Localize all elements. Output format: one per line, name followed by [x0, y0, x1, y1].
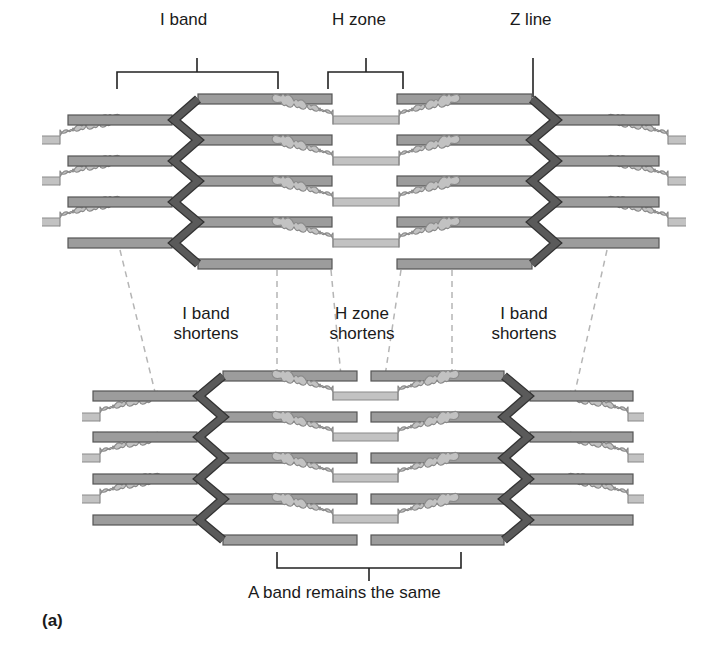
actin-filament	[198, 259, 332, 269]
label-i-band: I band	[160, 10, 207, 30]
actin-filament	[93, 391, 197, 401]
i-band-bracket	[117, 58, 278, 89]
actin-filament	[93, 474, 197, 484]
actin-filament	[223, 535, 357, 545]
actin-filament	[198, 217, 332, 227]
actin-filament	[198, 94, 332, 104]
actin-filament	[556, 115, 659, 125]
label-line-2: shortens	[173, 324, 238, 343]
actin-filament	[530, 474, 633, 484]
panel-label: (a)	[42, 611, 63, 631]
label-line-1: H zone	[335, 304, 389, 323]
label-i-band-shortens-right: I band shortens	[464, 304, 584, 344]
label-z-line: Z line	[510, 10, 552, 30]
actin-filament	[68, 156, 172, 166]
label-line-2: shortens	[329, 324, 394, 343]
label-h-zone: H zone	[332, 10, 386, 30]
label-i-band-shortens-left: I band shortens	[146, 304, 266, 344]
actin-filament	[397, 176, 532, 186]
actin-filament	[68, 115, 172, 125]
actin-filament	[397, 135, 532, 145]
relaxed-sarcomere	[42, 94, 686, 269]
contracted-sarcomere	[82, 370, 644, 545]
actin-filament	[93, 515, 197, 525]
actin-filament	[371, 535, 504, 545]
actin-filament	[68, 238, 172, 248]
a-band-bracket	[277, 552, 461, 581]
actin-filament	[68, 197, 172, 207]
actin-filament	[530, 391, 633, 401]
actin-filament	[530, 515, 633, 525]
sarcomere-contraction-diagram: I band H zone Z line I band shortens H z…	[0, 0, 722, 650]
label-line-1: I band	[182, 304, 229, 323]
label-line-2: shortens	[491, 324, 556, 343]
label-h-zone-shortens: H zone shortens	[302, 304, 422, 344]
label-line-1: I band	[500, 304, 547, 323]
actin-filament	[556, 156, 659, 166]
actin-filament	[556, 238, 659, 248]
actin-filament	[397, 94, 532, 104]
h-zone-bracket	[328, 58, 403, 89]
actin-filament	[198, 135, 332, 145]
actin-filament	[556, 197, 659, 207]
actin-filament	[93, 432, 197, 442]
label-a-band-same: A band remains the same	[248, 583, 441, 603]
actin-filament	[530, 432, 633, 442]
actin-filament	[198, 176, 332, 186]
actin-filament	[397, 217, 532, 227]
actin-filament	[397, 259, 532, 269]
